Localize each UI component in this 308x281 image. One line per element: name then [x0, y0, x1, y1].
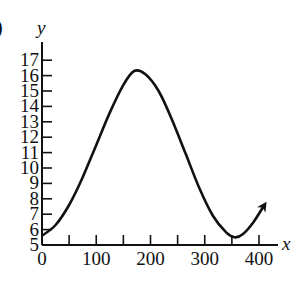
part-label: ): [0, 16, 3, 39]
data-curve: [42, 70, 264, 237]
tick-labels: 0100200300400567891011121314151617: [20, 49, 273, 269]
y-axis-label: y: [35, 17, 46, 38]
x-tick-label: 200: [136, 248, 165, 269]
chart: ) 0100200300400567891011121314151617 x y: [0, 0, 308, 281]
ticks: [42, 60, 259, 245]
axes: [42, 42, 278, 245]
x-tick-label: 100: [82, 248, 111, 269]
x-tick-label: 300: [191, 248, 220, 269]
x-axis-label: x: [281, 233, 291, 254]
x-tick-label: 400: [245, 248, 274, 269]
y-tick-label: 17: [20, 49, 39, 70]
